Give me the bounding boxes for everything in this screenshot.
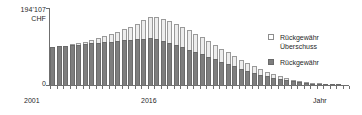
x-axis-tick (343, 86, 344, 89)
x-axis-tick (115, 86, 116, 89)
bar-segment-ueberschuss (141, 20, 146, 38)
bar-segment-rueckgewaehr (180, 47, 185, 85)
bar-segment-rueckgewaehr (226, 64, 231, 85)
bar-segment-ueberschuss (310, 83, 315, 84)
x-axis-tick (200, 86, 201, 89)
bar-segment-ueberschuss (180, 27, 185, 47)
bar-segment-rueckgewaehr (161, 41, 166, 85)
dark-square-swatch-icon (268, 59, 274, 65)
bar-column (245, 8, 250, 85)
x-axis-tick (148, 86, 149, 89)
x-axis-tick (304, 86, 305, 89)
bar-segment-rueckgewaehr (89, 43, 94, 85)
x-axis-tick (284, 86, 285, 89)
bar-segment-ueberschuss (102, 36, 107, 42)
legend-item-ueberschuss: Rückgewähr Überschuss (268, 33, 362, 51)
bar-segment-ueberschuss (252, 66, 257, 72)
bar-segment-rueckgewaehr (252, 73, 257, 85)
bar-segment-rueckgewaehr (63, 46, 68, 85)
bar-segment-rueckgewaehr (291, 81, 296, 85)
bar-segment-ueberschuss (174, 24, 179, 45)
bar-segment-rueckgewaehr (57, 46, 62, 85)
x-axis-tick (83, 86, 84, 89)
x-axis-tick (213, 86, 214, 89)
bar-segment-ueberschuss (96, 38, 101, 42)
bar-segment-ueberschuss (200, 37, 205, 54)
bar-segment-ueberschuss (278, 76, 283, 79)
bar-segment-rueckgewaehr (70, 45, 75, 85)
bar-segment-rueckgewaehr (187, 50, 192, 85)
x-axis-mid-label: 2016 (141, 96, 157, 105)
bar-segment-rueckgewaehr (323, 84, 328, 85)
bar-column (109, 8, 114, 85)
bar-column (219, 8, 224, 85)
bar-column (63, 8, 68, 85)
bar-segment-rueckgewaehr (102, 42, 107, 85)
bar-column (102, 8, 107, 85)
x-axis-tick (135, 86, 136, 89)
bar-segment-rueckgewaehr (245, 71, 250, 85)
bar-segment-rueckgewaehr (83, 44, 88, 85)
bar-segment-rueckgewaehr (317, 84, 322, 85)
x-axis-tick (50, 86, 51, 89)
legend-label-line1: Rückgewähr (280, 58, 362, 67)
x-axis-tick (323, 86, 324, 89)
bar-segment-rueckgewaehr (141, 39, 146, 85)
legend-label-line1: Rückgewähr (280, 33, 362, 42)
bar-segment-rueckgewaehr (297, 82, 302, 85)
bar-segment-rueckgewaehr (154, 39, 159, 85)
bar-segment-ueberschuss (297, 81, 302, 82)
chart-legend: Rückgewähr Überschuss Rückgewähr (268, 33, 362, 74)
bar-segment-rueckgewaehr (258, 75, 263, 85)
bar-segment-rueckgewaehr (206, 57, 211, 85)
x-axis-tick (96, 86, 97, 89)
bar-segment-ueberschuss (128, 27, 133, 40)
bar-column (89, 8, 94, 85)
bar-column (232, 8, 237, 85)
bar-segment-rueckgewaehr (96, 43, 101, 85)
bar-segment-rueckgewaehr (76, 45, 81, 85)
bar-segment-ueberschuss (161, 19, 166, 41)
x-axis-ticks (50, 86, 349, 89)
bar-segment-ueberschuss (89, 40, 94, 43)
bar-segment-rueckgewaehr (193, 52, 198, 85)
x-axis-tick (278, 86, 279, 89)
bar-column (161, 8, 166, 85)
bar-segment-ueberschuss (115, 32, 120, 41)
x-axis-tick (102, 86, 103, 89)
x-axis-tick (310, 86, 311, 89)
bar-column (76, 8, 81, 85)
bar-column (174, 8, 179, 85)
bar-segment-rueckgewaehr (109, 42, 114, 85)
bar-segment-ueberschuss (245, 63, 250, 71)
bar-column (239, 8, 244, 85)
bar-column (148, 8, 153, 85)
x-axis-tick (291, 86, 292, 89)
x-axis-tick (70, 86, 71, 89)
x-axis-tick (239, 86, 240, 89)
x-axis-tick (317, 86, 318, 89)
x-axis-tick (161, 86, 162, 89)
bar-segment-ueberschuss (187, 30, 192, 49)
bar-segment-ueberschuss (213, 45, 218, 59)
bar-segment-rueckgewaehr (310, 84, 315, 86)
bar-segment-ueberschuss (219, 49, 224, 62)
bar-segment-rueckgewaehr (50, 47, 55, 85)
x-axis-tick (206, 86, 207, 89)
bar-segment-rueckgewaehr (265, 76, 270, 85)
bar-column (70, 8, 75, 85)
y-axis-max-label: 194'107 CHF (0, 5, 46, 23)
bar-segment-ueberschuss (109, 34, 114, 41)
stacked-bar-chart: 194'107 CHF 0 2001 2016 Jahr Rückgewähr … (0, 0, 362, 115)
bar-segment-ueberschuss (284, 78, 289, 80)
x-axis-tick (128, 86, 129, 89)
bar-column (115, 8, 120, 85)
bar-segment-rueckgewaehr (115, 41, 120, 85)
bar-segment-ueberschuss (193, 34, 198, 52)
bar-segment-rueckgewaehr (278, 79, 283, 85)
bar-column (187, 8, 192, 85)
bar-segment-ueberschuss (239, 60, 244, 69)
legend-label-line2: Überschuss (280, 42, 362, 51)
x-axis-tick (154, 86, 155, 89)
x-axis-tick (122, 86, 123, 89)
